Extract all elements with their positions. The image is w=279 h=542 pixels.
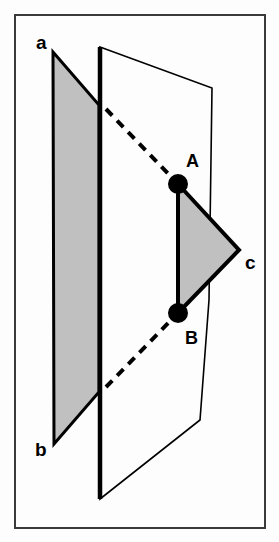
point-A-marker xyxy=(168,174,188,194)
vertex-label-c: c xyxy=(245,252,256,273)
figure-canvas: A B a b c xyxy=(0,0,279,542)
geometry-figure: A B a b c xyxy=(0,0,279,542)
vertex-label-b: b xyxy=(35,439,47,460)
vertex-label-a: a xyxy=(36,32,47,53)
shaded-plane xyxy=(53,52,99,444)
point-B-label: B xyxy=(185,328,198,348)
point-B-marker xyxy=(168,303,188,323)
point-A-label: A xyxy=(186,151,199,171)
